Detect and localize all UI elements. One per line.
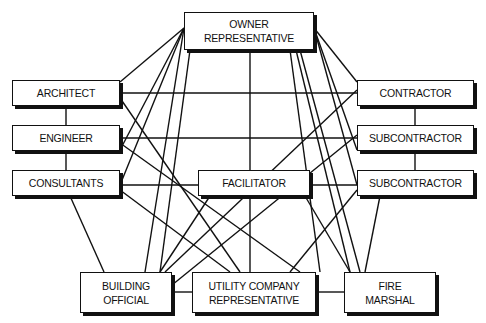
node-label-line: REPRESENTATIVE: [208, 293, 299, 307]
node-subcontractor2: SUBCONTRACTOR: [357, 170, 474, 196]
node-label-line: FACILITATOR: [222, 176, 286, 190]
node-label-line: BUILDING: [102, 279, 150, 293]
connection-line: [314, 28, 357, 82]
node-label-line: MARSHAL: [365, 293, 414, 307]
node-contractor: CONTRACTOR: [357, 80, 474, 106]
node-building-official: BUILDINGOFFICIAL: [80, 272, 172, 313]
node-label-line: OFFICIAL: [102, 293, 150, 307]
connection-line: [70, 196, 104, 272]
node-label: UTILITY COMPANYREPRESENTATIVE: [208, 279, 299, 307]
node-facilitator: FACILITATOR: [198, 170, 310, 196]
node-label-line: ARCHITECT: [37, 86, 95, 100]
node-consultants: CONSULTANTS: [12, 170, 120, 196]
node-label-line: ENGINEER: [39, 131, 92, 145]
node-label: OWNERREPRESENTATIVE: [204, 17, 294, 45]
node-label-line: SUBCONTRACTOR: [369, 131, 462, 145]
node-label: CONTRACTOR: [380, 86, 452, 100]
connection-line: [296, 50, 350, 272]
connection-line: [314, 28, 357, 150]
node-label: CONSULTANTS: [29, 176, 103, 190]
node-label: SUBCONTRACTOR: [369, 176, 462, 190]
node-label-line: SUBCONTRACTOR: [369, 176, 462, 190]
connection-line: [120, 143, 300, 272]
node-architect: ARCHITECT: [12, 80, 120, 106]
node-label-line: UTILITY COMPANY: [208, 279, 299, 293]
node-label-line: CONTRACTOR: [380, 86, 452, 100]
node-label: ARCHITECT: [37, 86, 95, 100]
node-label: SUBCONTRACTOR: [369, 131, 462, 145]
connection-line: [314, 28, 357, 185]
connection-line: [172, 135, 357, 285]
node-engineer: ENGINEER: [12, 125, 120, 151]
node-label: ENGINEER: [39, 131, 92, 145]
node-label-line: OWNER: [204, 17, 294, 31]
node-fire-marshal: FIREMARSHAL: [344, 272, 436, 313]
node-label-line: CONSULTANTS: [29, 176, 103, 190]
node-label: FIREMARSHAL: [365, 279, 414, 307]
node-subcontractor1: SUBCONTRACTOR: [357, 125, 474, 151]
node-owner: OWNERREPRESENTATIVE: [184, 12, 314, 50]
node-label-line: FIRE: [365, 279, 414, 293]
connection-line: [120, 28, 184, 82]
node-utility: UTILITY COMPANYREPRESENTATIVE: [192, 272, 316, 313]
connection-line: [290, 50, 320, 272]
node-label: BUILDINGOFFICIAL: [102, 279, 150, 307]
connection-line: [120, 190, 230, 272]
node-label-line: REPRESENTATIVE: [204, 31, 294, 45]
node-label: FACILITATOR: [222, 176, 286, 190]
connection-line: [365, 196, 380, 272]
